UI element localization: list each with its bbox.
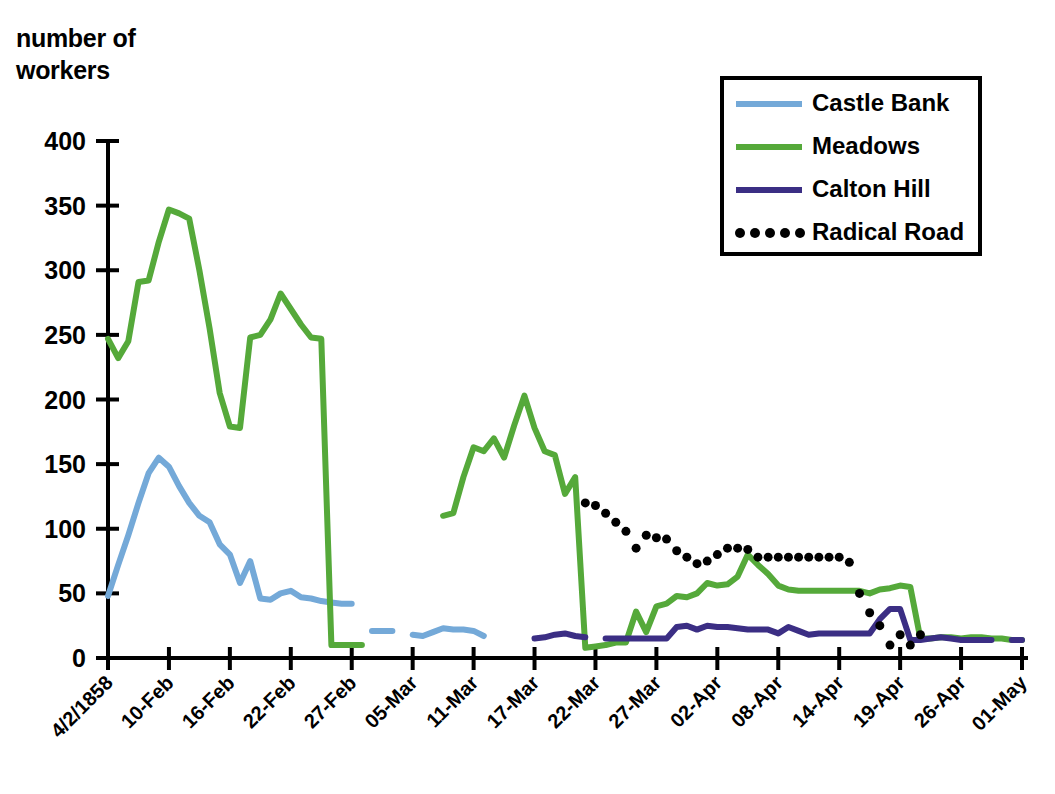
data-point xyxy=(814,553,823,562)
data-point xyxy=(825,553,834,562)
legend-swatch-dotted xyxy=(765,228,775,238)
series-path xyxy=(606,609,992,640)
series-path xyxy=(535,633,586,638)
y-tick-label: 400 xyxy=(44,127,86,155)
x-tick-label: 26-Apr xyxy=(910,671,971,732)
legend-item-label: Meadows xyxy=(812,132,920,159)
legend-item-label: Castle Bank xyxy=(812,89,950,116)
y-tick-label: 250 xyxy=(44,321,86,349)
y-tick-label: 100 xyxy=(44,515,86,543)
line-chart: 0501001502002503003504004/2/185810-Feb16… xyxy=(0,0,1055,794)
x-tick-label: 27-Mar xyxy=(604,671,665,732)
data-point xyxy=(713,550,722,559)
y-tick-label: 0 xyxy=(72,644,86,672)
x-tick-label: 10-Feb xyxy=(117,671,178,732)
data-point xyxy=(906,641,915,650)
data-point xyxy=(611,518,620,527)
x-tick-label: 11-Mar xyxy=(422,671,483,732)
series-path xyxy=(443,396,1022,648)
data-point xyxy=(774,553,783,562)
legend-swatch-dotted xyxy=(735,228,745,238)
y-tick-label: 200 xyxy=(44,386,86,414)
data-point xyxy=(693,559,702,568)
data-point xyxy=(794,553,803,562)
x-tick-label: 01-May xyxy=(967,671,1031,735)
data-point xyxy=(784,553,793,562)
data-point xyxy=(672,546,681,555)
chart-container: number of workers 0501001502002503003504… xyxy=(0,0,1055,794)
legend-item-label: Calton Hill xyxy=(812,175,931,202)
legend-swatch-dotted xyxy=(780,228,790,238)
series-path xyxy=(108,458,352,604)
x-tick-label: 17-Mar xyxy=(482,671,543,732)
data-point xyxy=(896,630,905,639)
data-point xyxy=(764,553,773,562)
data-point xyxy=(733,544,742,553)
series-meadows xyxy=(108,210,1022,648)
data-point xyxy=(723,544,732,553)
x-tick-label: 19-Apr xyxy=(849,671,910,732)
legend-item-label: Radical Road xyxy=(812,218,964,245)
x-tick-label: 16-Feb xyxy=(178,671,239,732)
data-point xyxy=(835,553,844,562)
x-tick-label: 22-Mar xyxy=(543,671,604,732)
data-point xyxy=(865,608,874,617)
x-tick-label: 22-Feb xyxy=(238,671,299,732)
data-point xyxy=(743,545,752,554)
series-castle-bank xyxy=(108,458,484,636)
y-tick-label: 150 xyxy=(44,450,86,478)
data-point xyxy=(753,553,762,562)
x-tick-label: 4/2/1858 xyxy=(46,671,117,742)
x-tick-label: 27-Feb xyxy=(299,671,360,732)
data-point xyxy=(601,509,610,518)
data-point xyxy=(632,544,641,553)
legend-swatch-dotted xyxy=(750,228,760,238)
data-point xyxy=(804,553,813,562)
data-point xyxy=(621,527,630,536)
data-point xyxy=(581,498,590,507)
series-path xyxy=(108,210,362,646)
x-tick-label: 08-Apr xyxy=(727,671,788,732)
y-axis-title: number of workers xyxy=(16,22,136,86)
x-tick-label: 02-Apr xyxy=(666,671,727,732)
y-tick-label: 300 xyxy=(44,256,86,284)
legend-swatch-dotted xyxy=(795,228,805,238)
data-point xyxy=(591,501,600,510)
data-point xyxy=(642,531,651,540)
y-tick-label: 50 xyxy=(58,579,86,607)
y-tick-label: 350 xyxy=(44,192,86,220)
x-tick-label: 05-Mar xyxy=(360,671,421,732)
x-tick-label: 14-Apr xyxy=(788,671,849,732)
data-point xyxy=(662,535,671,544)
data-point xyxy=(875,621,884,630)
data-point xyxy=(682,553,691,562)
data-point xyxy=(916,630,925,639)
data-point xyxy=(703,557,712,566)
series-path xyxy=(413,628,484,636)
data-point xyxy=(855,589,864,598)
data-point xyxy=(652,533,661,542)
data-point xyxy=(845,558,854,567)
data-point xyxy=(885,641,894,650)
